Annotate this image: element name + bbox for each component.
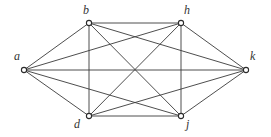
- graph-vertex-b: [86, 20, 91, 25]
- graph-vertex-j: [178, 113, 183, 118]
- graph-vertex-d: [86, 113, 91, 118]
- graph-canvas: [0, 0, 271, 137]
- graph-vertex-a: [21, 67, 26, 72]
- graph-diagram: abhkjd: [0, 0, 271, 137]
- edges-layer: [24, 23, 246, 116]
- graph-vertex-h: [178, 20, 183, 25]
- graph-edge-a-j: [24, 70, 181, 116]
- graph-edge-a-b: [24, 23, 89, 70]
- vertex-label-b: b: [83, 4, 89, 16]
- graph-edge-k-j: [181, 70, 246, 116]
- graph-vertex-k: [243, 67, 248, 72]
- graph-edge-h-k: [181, 23, 246, 70]
- vertex-label-h: h: [184, 4, 190, 16]
- vertex-label-a: a: [14, 50, 20, 62]
- vertex-label-k: k: [250, 50, 255, 62]
- graph-edge-k-d: [89, 70, 246, 116]
- vertex-label-d: d: [74, 118, 80, 130]
- vertex-label-j: j: [186, 118, 189, 130]
- graph-edge-a-d: [24, 70, 89, 116]
